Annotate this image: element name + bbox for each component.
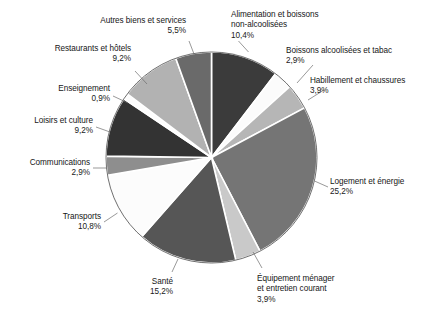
- slice-value-loisirs: 9,2%: [8, 126, 93, 136]
- slice-label-restaurants: Restaurants et hôtels 9,2%: [30, 44, 131, 65]
- slice-label-restaurants-line1: Restaurants et hôtels: [55, 44, 131, 53]
- leader-line-logement: [315, 181, 329, 187]
- slice-label-boissons-alcoolisees: Boissons alcoolisées et tabac 2,9%: [286, 46, 392, 67]
- slice-value-restaurants: 9,2%: [30, 54, 131, 64]
- slice-label-alimentation: Alimentation et boissons non-alcoolisées…: [231, 10, 319, 41]
- leader-line-transports: [104, 213, 118, 222]
- slice-value-habillement: 3,9%: [310, 86, 405, 96]
- slice-value-communications: 2,9%: [2, 168, 90, 178]
- slice-label-communications: Communications 2,9%: [2, 158, 90, 179]
- leader-line-loisirs: [96, 127, 110, 132]
- slice-label-equipement-line2: et entretien courant: [257, 284, 327, 293]
- slice-label-loisirs: Loisirs et culture 9,2%: [8, 116, 93, 137]
- slice-label-sante-line1: Santé: [152, 277, 173, 286]
- slice-value-transports: 10,8%: [23, 222, 101, 232]
- slice-label-enseignement: Enseignement 0,9%: [26, 84, 110, 105]
- slice-label-alimentation-line2: non-alcoolisées: [231, 20, 287, 29]
- leader-line-autres: [189, 41, 194, 54]
- slice-label-equipement: Équipement ménager et entretien courant …: [257, 274, 334, 305]
- slice-label-communications-line1: Communications: [30, 158, 90, 167]
- slice-value-equipement: 3,9%: [257, 295, 334, 305]
- slice-label-enseignement-line1: Enseignement: [58, 84, 110, 93]
- slice-value-autres: 5,5%: [78, 26, 186, 36]
- pie-slices-group: [106, 52, 317, 263]
- slice-value-alimentation: 10,4%: [231, 31, 319, 41]
- leader-line-sante: [172, 259, 178, 272]
- slice-label-sante: Santé 15,2%: [110, 277, 173, 298]
- slice-label-loisirs-line1: Loisirs et culture: [34, 116, 93, 125]
- slice-value-enseignement: 0,9%: [26, 94, 110, 104]
- slice-label-transports: Transports 10,8%: [23, 212, 101, 233]
- slice-label-autres: Autres biens et services 5,5%: [78, 16, 186, 37]
- slice-label-logement: Logement et énergie 25,2%: [330, 177, 404, 198]
- leader-line-alimentation: [239, 41, 249, 52]
- slice-value-boissons-alcoolisees: 2,9%: [286, 56, 392, 66]
- slice-value-logement: 25,2%: [330, 187, 404, 197]
- slice-label-habillement-line1: Habillement et chaussures: [310, 76, 405, 85]
- slice-label-habillement: Habillement et chaussures 3,9%: [310, 76, 405, 97]
- leader-line-equipement: [253, 252, 262, 268]
- slice-label-autres-line1: Autres biens et services: [100, 16, 186, 25]
- pie-chart-figure: Alimentation et boissons non-alcoolisées…: [0, 0, 439, 322]
- slice-label-alimentation-line1: Alimentation et boissons: [231, 10, 319, 19]
- slice-label-transports-line1: Transports: [63, 212, 101, 221]
- slice-value-sante: 15,2%: [110, 287, 173, 297]
- slice-label-equipement-line1: Équipement ménager: [257, 274, 334, 283]
- slice-label-boissons-alcoolisees-line1: Boissons alcoolisées et tabac: [286, 46, 392, 55]
- slice-label-logement-line1: Logement et énergie: [330, 177, 404, 186]
